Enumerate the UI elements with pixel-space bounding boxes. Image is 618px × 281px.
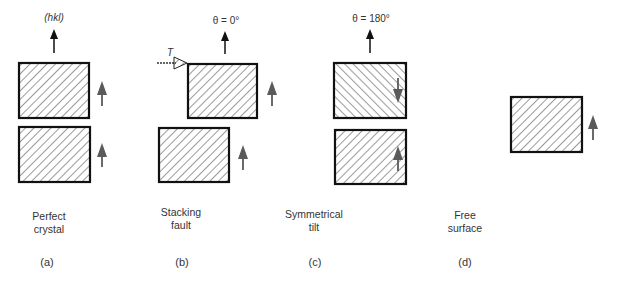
panel-c xyxy=(334,29,406,184)
panel-d xyxy=(511,97,598,152)
panel-caption: (c) xyxy=(309,256,322,268)
title-line: tilt xyxy=(285,221,343,234)
panel-caption: (a) xyxy=(40,256,53,268)
theta-label: θ = 180° xyxy=(352,13,390,24)
crystal-block-top xyxy=(19,63,89,118)
panel-title: Symmetrical tilt xyxy=(285,208,343,234)
polarity-up-arrow-icon xyxy=(238,145,248,170)
title-line: Stacking xyxy=(161,206,201,219)
title-line: fault xyxy=(161,219,201,232)
panel-a xyxy=(19,29,107,182)
translation-label: T xyxy=(167,47,173,58)
title-line: surface xyxy=(448,222,482,235)
surface-normal-arrow-icon xyxy=(221,31,229,54)
panel-title: Free surface xyxy=(448,209,482,235)
polarity-up-arrow-icon xyxy=(588,115,598,140)
panel-caption: (b) xyxy=(175,256,188,268)
polarity-up-arrow-icon xyxy=(267,81,277,106)
panel-caption: (d) xyxy=(458,256,471,268)
crystal-block-top-shifted xyxy=(188,64,257,118)
diagram-canvas xyxy=(0,0,618,281)
title-line: Symmetrical xyxy=(285,208,343,221)
title-line: Perfect xyxy=(32,210,65,223)
miller-index-label: (hkl) xyxy=(44,12,63,23)
surface-normal-arrow-icon xyxy=(366,29,374,53)
title-line: crystal xyxy=(32,223,65,236)
polarity-up-arrow-icon xyxy=(97,143,107,167)
crystal-block-bottom xyxy=(159,128,229,182)
crystal-block-surface xyxy=(511,97,582,152)
title-line: Free xyxy=(448,209,482,222)
panel-title: Stacking fault xyxy=(161,206,201,232)
crystal-block-bottom xyxy=(19,127,90,182)
panel-b xyxy=(157,31,277,182)
theta-label: θ = 0° xyxy=(213,15,240,26)
polarity-up-arrow-icon xyxy=(97,81,107,106)
translation-arrow-icon xyxy=(157,57,187,69)
surface-normal-arrow-icon xyxy=(50,29,58,53)
panel-title: Perfect crystal xyxy=(32,210,65,236)
